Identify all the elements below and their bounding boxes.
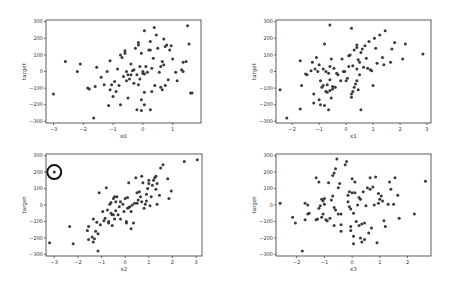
data-point	[162, 163, 165, 166]
data-point	[323, 203, 326, 206]
data-point	[134, 176, 137, 179]
data-point	[166, 177, 169, 180]
data-point	[93, 237, 96, 240]
data-point	[116, 68, 119, 71]
data-point	[319, 204, 322, 207]
data-point	[119, 103, 122, 106]
y-tick-label: −100	[29, 218, 43, 224]
data-point	[360, 241, 363, 244]
y-tick-label: −100	[259, 218, 273, 224]
y-tick-label: 100	[33, 185, 43, 191]
data-point	[154, 175, 157, 178]
x-tick-label: 0	[351, 259, 354, 265]
data-point	[144, 65, 147, 68]
data-point	[330, 58, 333, 61]
y-tick-label: −100	[29, 85, 43, 91]
data-point	[352, 212, 355, 215]
data-point	[320, 216, 323, 219]
data-point	[390, 48, 393, 51]
data-point	[358, 73, 361, 76]
data-point	[367, 231, 370, 234]
data-point	[115, 195, 118, 198]
data-point	[323, 104, 326, 107]
data-point	[381, 56, 384, 59]
data-point	[156, 47, 159, 50]
data-point	[183, 160, 186, 163]
data-point	[327, 108, 330, 111]
data-point	[129, 63, 132, 66]
x-tick-label: 0	[141, 126, 144, 132]
data-point	[106, 208, 109, 211]
data-point	[344, 163, 347, 166]
data-point	[346, 77, 349, 80]
data-point	[380, 194, 383, 197]
data-point	[299, 107, 302, 110]
data-point	[362, 66, 365, 69]
data-point	[121, 56, 124, 59]
data-point	[355, 79, 358, 82]
data-point	[119, 217, 122, 220]
x-axis-label: x0	[120, 133, 127, 139]
data-point	[121, 203, 124, 206]
data-point	[64, 60, 67, 63]
axes-frame	[276, 154, 431, 256]
data-point	[165, 43, 168, 46]
data-point	[360, 222, 363, 225]
data-point	[334, 208, 337, 211]
data-point	[349, 208, 352, 211]
data-point	[337, 186, 340, 189]
data-point	[150, 67, 153, 70]
x-axis-label: x3	[350, 266, 357, 272]
data-point	[92, 117, 95, 120]
data-point	[351, 64, 354, 67]
data-point	[113, 80, 116, 83]
y-axis-label: target	[251, 196, 258, 214]
data-point	[413, 213, 416, 216]
data-point	[393, 41, 396, 44]
data-point	[137, 83, 140, 86]
data-point	[355, 68, 358, 71]
data-point	[143, 91, 146, 94]
data-point	[95, 221, 98, 224]
subplot-x1: −300−200−1000100200300−2−10123x1target	[251, 18, 431, 139]
data-point	[95, 66, 98, 69]
data-point	[107, 104, 110, 107]
data-point	[349, 229, 352, 232]
data-point	[346, 194, 349, 197]
data-point	[114, 200, 117, 203]
data-point	[374, 176, 377, 179]
data-point	[366, 186, 369, 189]
data-point	[279, 202, 282, 205]
data-point	[152, 57, 155, 60]
data-point	[161, 88, 164, 91]
data-point	[162, 63, 165, 66]
data-point	[143, 207, 146, 210]
data-point	[182, 70, 185, 73]
data-point	[343, 70, 346, 73]
data-point	[312, 92, 315, 95]
y-tick-label: −300	[29, 118, 43, 124]
data-point	[363, 44, 366, 47]
data-point	[301, 250, 304, 253]
data-point	[361, 48, 364, 51]
data-point	[168, 48, 171, 51]
x-tick-label: −3	[51, 259, 58, 265]
data-point	[388, 180, 391, 183]
data-point	[421, 53, 424, 56]
data-point	[100, 76, 103, 79]
data-point	[158, 71, 161, 74]
data-point	[368, 40, 371, 43]
data-point	[306, 73, 309, 76]
data-point	[318, 98, 321, 101]
x-tick-label: −2	[80, 126, 87, 132]
data-point	[150, 90, 153, 93]
data-point	[357, 88, 360, 91]
data-point	[349, 53, 352, 56]
data-point	[328, 23, 331, 26]
data-point	[350, 96, 353, 99]
data-point	[359, 51, 362, 54]
data-point	[372, 84, 375, 87]
y-axis-label: target	[21, 62, 28, 80]
data-point	[306, 204, 309, 207]
data-point	[356, 204, 359, 207]
